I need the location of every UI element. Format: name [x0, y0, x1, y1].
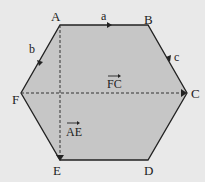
vertex-label-D: D [144, 163, 153, 178]
vertex-label-B: B [144, 12, 153, 27]
vertex-label-E: E [53, 163, 61, 178]
vector-label-AE: AE [66, 125, 82, 139]
hexagon-diagram: A B C D E F a b c FC AE [0, 0, 205, 182]
vector-label-FC: FC [107, 77, 122, 91]
vector-label-a: a [101, 9, 107, 23]
diagram-canvas: A B C D E F a b c FC AE [0, 0, 205, 182]
vertex-label-A: A [51, 9, 61, 24]
vertex-label-F: F [12, 92, 19, 107]
vector-label-c: c [174, 50, 179, 64]
vertex-label-C: C [191, 86, 200, 101]
vector-label-b: b [29, 42, 35, 56]
